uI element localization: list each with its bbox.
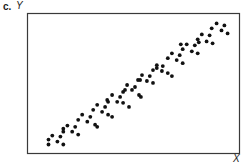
data-point — [151, 68, 155, 72]
data-point — [155, 66, 159, 70]
data-point — [197, 40, 201, 44]
data-point — [145, 79, 149, 83]
data-point — [70, 130, 74, 134]
data-point — [95, 103, 99, 107]
data-point — [66, 124, 70, 128]
data-point — [95, 125, 99, 129]
data-point — [110, 93, 114, 97]
data-point — [170, 74, 174, 78]
data-point — [138, 78, 142, 82]
data-point — [61, 127, 65, 131]
data-point — [200, 33, 204, 37]
data-point — [100, 110, 104, 114]
data-point — [211, 41, 215, 45]
data-point — [151, 81, 155, 85]
data-point — [161, 64, 165, 68]
data-point — [205, 40, 209, 44]
data-point — [193, 43, 197, 47]
data-point — [85, 120, 89, 124]
data-point — [125, 83, 129, 87]
data-point — [103, 105, 107, 109]
data-point — [106, 113, 110, 117]
data-point — [166, 56, 170, 60]
data-point — [210, 26, 214, 30]
data-point — [175, 58, 179, 62]
data-point — [196, 51, 200, 55]
data-point — [110, 115, 114, 119]
plot-frame — [28, 14, 240, 154]
data-point — [76, 133, 80, 137]
data-point — [148, 74, 152, 78]
data-point — [59, 135, 63, 139]
scatter-plot — [0, 0, 244, 165]
data-point — [47, 143, 51, 147]
data-point — [73, 125, 77, 129]
data-point — [140, 73, 144, 77]
data-point — [178, 53, 182, 57]
data-point — [123, 88, 127, 92]
data-point — [179, 42, 183, 46]
data-point — [215, 22, 219, 26]
data-point — [160, 69, 164, 73]
data-point — [127, 105, 131, 109]
data-point — [181, 47, 185, 51]
data-point — [61, 143, 65, 147]
data-point — [118, 95, 122, 99]
data-point — [76, 118, 80, 122]
data-point — [47, 138, 51, 142]
data-point — [226, 32, 230, 36]
data-point — [208, 33, 212, 37]
data-point — [56, 140, 60, 144]
data-point — [190, 49, 194, 53]
data-point — [106, 100, 110, 104]
data-point — [130, 88, 134, 92]
data-point — [121, 101, 125, 105]
data-point — [185, 42, 189, 46]
data-points — [47, 22, 230, 147]
data-point — [223, 24, 227, 28]
data-point — [139, 95, 143, 99]
data-point — [80, 113, 84, 117]
data-point — [133, 85, 137, 89]
data-point — [170, 51, 174, 55]
data-point — [88, 115, 92, 119]
data-point — [166, 71, 170, 75]
data-point — [181, 61, 185, 65]
data-point — [220, 29, 224, 33]
data-point — [50, 134, 54, 138]
data-point — [91, 108, 95, 112]
data-point — [115, 100, 119, 104]
